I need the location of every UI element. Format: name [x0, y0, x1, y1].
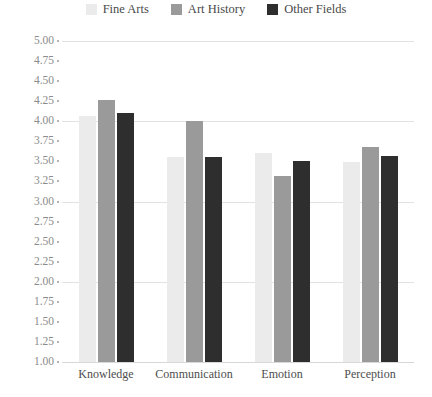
legend-label-art-history: Art History: [188, 3, 245, 16]
legend-label-fine-arts: Fine Arts: [103, 3, 149, 16]
bar-group: [343, 41, 398, 362]
bar-group: [79, 41, 134, 362]
y-axis-tick-dot: [57, 361, 59, 363]
bar[interactable]: [205, 157, 222, 362]
bar[interactable]: [255, 153, 272, 362]
bar-group: [167, 41, 222, 362]
y-axis-labels: 5.004.754.504.254.003.753.503.253.002.75…: [8, 41, 54, 362]
y-axis-tick-label: 5.00: [8, 35, 54, 47]
legend-item-other-fields[interactable]: Other Fields: [267, 3, 346, 16]
y-axis-tick-dot: [57, 221, 59, 223]
y-axis-tick-dot: [57, 140, 59, 142]
bar-chart: Fine Arts Art History Other Fields 5.004…: [0, 0, 432, 397]
y-axis-tick-label: 3.25: [8, 176, 54, 188]
plot-area: [62, 41, 414, 362]
y-axis-tick-label: 2.00: [8, 276, 54, 288]
legend-swatch-fine-arts: [86, 4, 97, 15]
legend-swatch-art-history: [171, 4, 182, 15]
legend-item-art-history[interactable]: Art History: [171, 3, 245, 16]
y-axis-tick-dot: [57, 201, 59, 203]
y-axis-tick-label: 3.00: [8, 196, 54, 208]
y-axis-tick-marks: [57, 41, 60, 362]
y-axis-tick-dot: [57, 341, 59, 343]
y-axis-tick-dot: [57, 100, 59, 102]
bar[interactable]: [293, 161, 310, 362]
y-axis-tick-dot: [57, 261, 59, 263]
gridline: [62, 362, 414, 363]
y-axis-tick-dot: [57, 120, 59, 122]
bar-group: [255, 41, 310, 362]
y-axis-tick-dot: [57, 321, 59, 323]
bar[interactable]: [362, 147, 379, 362]
x-axis-category-label: Perception: [344, 368, 395, 380]
y-axis-tick-label: 2.50: [8, 236, 54, 248]
y-axis-tick-label: 4.25: [8, 95, 54, 107]
x-axis-category-label: Emotion: [261, 368, 302, 380]
bar[interactable]: [381, 156, 398, 362]
y-axis-tick-label: 1.25: [8, 336, 54, 348]
legend-swatch-other-fields: [267, 4, 278, 15]
y-axis-tick-dot: [57, 160, 59, 162]
x-axis-category-label: Knowledge: [78, 368, 133, 380]
y-axis-tick-label: 4.00: [8, 116, 54, 128]
y-axis-tick-dot: [57, 80, 59, 82]
legend-label-other-fields: Other Fields: [284, 3, 346, 16]
y-axis-tick-label: 1.75: [8, 296, 54, 308]
y-axis-tick-dot: [57, 40, 59, 42]
x-axis-category-label: Communication: [155, 368, 232, 380]
bar[interactable]: [79, 116, 96, 362]
y-axis-tick-label: 2.25: [8, 256, 54, 268]
y-axis-tick-dot: [57, 241, 59, 243]
x-axis-labels: KnowledgeCommunicationEmotionPerception: [62, 368, 414, 388]
y-axis-tick-label: 1.50: [8, 316, 54, 328]
bar[interactable]: [98, 100, 115, 362]
y-axis-tick-label: 4.50: [8, 75, 54, 87]
y-axis-tick-dot: [57, 301, 59, 303]
y-axis-tick-dot: [57, 180, 59, 182]
bar[interactable]: [186, 121, 203, 362]
y-axis-tick-dot: [57, 60, 59, 62]
y-axis-tick-label: 3.75: [8, 136, 54, 148]
bar[interactable]: [117, 113, 134, 362]
y-axis-tick-dot: [57, 281, 59, 283]
chart-legend: Fine Arts Art History Other Fields: [0, 3, 432, 16]
legend-item-fine-arts[interactable]: Fine Arts: [86, 3, 149, 16]
y-axis-tick-label: 2.75: [8, 216, 54, 228]
bar[interactable]: [167, 157, 184, 362]
bar[interactable]: [274, 176, 291, 362]
y-axis-tick-label: 3.50: [8, 156, 54, 168]
bar[interactable]: [343, 162, 360, 362]
y-axis-tick-label: 4.75: [8, 55, 54, 67]
y-axis-tick-label: 1.00: [8, 356, 54, 368]
